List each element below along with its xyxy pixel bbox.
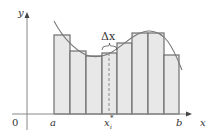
riemann-rectangle	[148, 33, 164, 114]
sample-point-label: x i *	[104, 114, 114, 130]
riemann-rectangle	[86, 56, 102, 114]
delta-x-label: Δx	[101, 30, 116, 43]
riemann-rectangle	[164, 55, 179, 114]
delta-x-brace-icon	[102, 43, 117, 50]
y-axis-label: y	[17, 7, 24, 18]
svg-text:i: i	[110, 123, 112, 130]
a-tick-label: a	[50, 117, 56, 128]
riemann-sum-diagram: Δx y x 0 a b x i *	[0, 0, 218, 136]
riemann-rectangle	[70, 51, 86, 114]
riemann-rectangle	[117, 43, 132, 114]
riemann-rectangle	[132, 33, 148, 114]
origin-label: 0	[12, 117, 18, 128]
riemann-rectangle	[54, 35, 70, 114]
x-axis-label: x	[200, 117, 206, 128]
x-axis-arrow-icon	[186, 112, 192, 117]
y-axis-arrow-icon	[25, 12, 30, 18]
svg-text:*: *	[110, 114, 114, 122]
b-tick-label: b	[176, 117, 182, 128]
